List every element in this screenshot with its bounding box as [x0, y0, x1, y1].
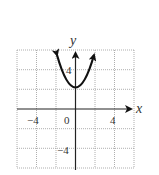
x-tick-4: 4 — [110, 114, 116, 126]
x-tick-neg4: −4 — [27, 114, 39, 126]
y-tick-4: 4 — [66, 64, 72, 76]
graph-canvas: y x −4 0 4 4 −4 — [0, 0, 159, 175]
y-tick-neg4: −4 — [57, 144, 69, 156]
y-axis-label: y — [68, 33, 77, 48]
x-tick-0: 0 — [64, 114, 70, 126]
x-axis-label: x — [135, 101, 143, 116]
